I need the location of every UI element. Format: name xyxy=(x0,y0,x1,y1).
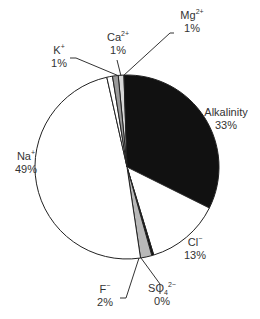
label-k: K+ 1% xyxy=(44,44,74,70)
label-ca: Ca2+ 1% xyxy=(98,31,138,57)
label-mg: Mg2+ 1% xyxy=(172,9,212,35)
leader-k xyxy=(70,58,119,76)
label-cl: Cl− 13% xyxy=(180,236,210,262)
label-so4: SO42− 0% xyxy=(146,282,178,308)
leader-ca xyxy=(117,60,121,76)
label-alkalinity: Alkalinity 33% xyxy=(196,106,256,132)
label-f: F− 2% xyxy=(92,283,118,309)
label-na: Na+ 49% xyxy=(10,150,42,176)
leader-f xyxy=(120,258,139,298)
